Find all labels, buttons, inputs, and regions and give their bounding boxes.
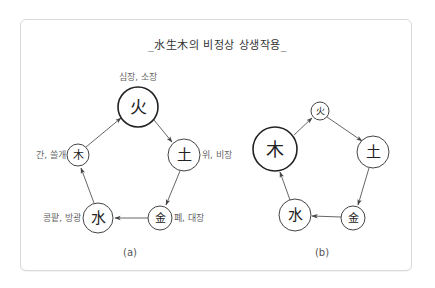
node-metal-b: 金 bbox=[341, 206, 365, 230]
node-wood-a: 木 간, 쓸개 bbox=[36, 144, 89, 166]
metal-char: 金 bbox=[348, 211, 359, 225]
edge-earth-to-metal-b bbox=[358, 168, 369, 205]
edge-wood-to-fire-a bbox=[86, 118, 121, 147]
edge-metal-to-water-b bbox=[312, 216, 341, 217]
edge-fire-to-earth-b bbox=[327, 117, 362, 141]
diagram-a-label: (a) bbox=[123, 247, 137, 258]
metal-char: 金 bbox=[155, 211, 166, 225]
fire-char: 火 bbox=[316, 106, 325, 116]
node-wood-b: 木 bbox=[253, 127, 297, 171]
earth-organs: 위, 비장 bbox=[202, 150, 232, 160]
node-water-a: 水 콩팥, 방광 bbox=[43, 203, 113, 233]
wood-organs: 간, 쓸개 bbox=[36, 150, 66, 160]
metal-organs: 폐, 대장 bbox=[174, 212, 204, 223]
diagram-b: 火 土 金 水 木 (b) bbox=[253, 102, 389, 258]
earth-char: 土 bbox=[177, 146, 192, 164]
node-water-b: 水 bbox=[279, 199, 311, 231]
diagram-b-label: (b) bbox=[315, 247, 329, 258]
edge-water-to-wood-a bbox=[81, 168, 94, 203]
water-char: 水 bbox=[288, 206, 303, 224]
fire-char: 火 bbox=[130, 97, 147, 117]
five-elements-diagram: 火 심장, 소장 土 위, 비장 金 폐, 대장 水 콩팥, 방광 木 간, 쓸… bbox=[0, 0, 435, 288]
node-metal-a: 金 폐, 대장 bbox=[148, 206, 204, 230]
water-organs: 콩팥, 방광 bbox=[43, 212, 81, 223]
fire-organs: 심장, 소장 bbox=[119, 72, 157, 82]
node-fire-a: 火 심장, 소장 bbox=[118, 72, 158, 127]
wood-char: 木 bbox=[73, 149, 84, 162]
water-char: 水 bbox=[91, 209, 106, 227]
earth-char: 土 bbox=[366, 143, 381, 161]
wood-char: 木 bbox=[266, 139, 284, 160]
node-fire-b: 火 bbox=[311, 102, 329, 120]
node-earth-a: 土 위, 비장 bbox=[168, 139, 232, 171]
edge-water-to-wood-b bbox=[280, 172, 290, 200]
node-earth-b: 土 bbox=[357, 136, 389, 168]
diagram-a: 火 심장, 소장 土 위, 비장 金 폐, 대장 水 콩팥, 방광 木 간, 쓸… bbox=[36, 72, 231, 258]
edge-fire-to-earth-a bbox=[154, 120, 172, 142]
edge-wood-to-fire-b bbox=[294, 118, 312, 135]
edge-earth-to-metal-a bbox=[166, 171, 180, 205]
